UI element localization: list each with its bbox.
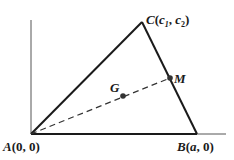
label-a: A(0, 0) — [2, 139, 40, 154]
point-g — [120, 93, 126, 99]
label-m: M — [173, 71, 186, 86]
side-ca — [31, 22, 142, 134]
label-b: B(a, 0) — [176, 139, 214, 154]
triangle-diagram: A(0, 0) B(a, 0) C(c1, c2) M G — [0, 0, 234, 160]
median-am — [31, 78, 170, 134]
point-m — [167, 75, 173, 81]
label-g: G — [110, 80, 120, 95]
label-c: C(c1, c2) — [146, 12, 189, 29]
